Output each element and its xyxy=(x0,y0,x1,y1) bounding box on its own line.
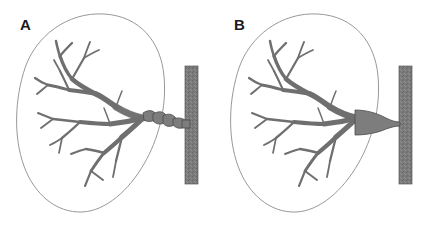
panel-a: A xyxy=(0,0,214,229)
aorta-b xyxy=(399,66,412,184)
panel-b: B xyxy=(214,0,428,229)
panel-b-label: B xyxy=(234,17,245,32)
panel-a-label: A xyxy=(20,17,31,32)
renal-artery-stenosis-beaded-a xyxy=(143,111,190,129)
renal-arterial-tree-b xyxy=(249,41,357,186)
renal-artery-stenosis-focal-b xyxy=(355,110,400,135)
figure-root: A xyxy=(0,0,428,229)
panel-b-illustration xyxy=(214,0,428,229)
panel-a-illustration xyxy=(0,0,214,229)
